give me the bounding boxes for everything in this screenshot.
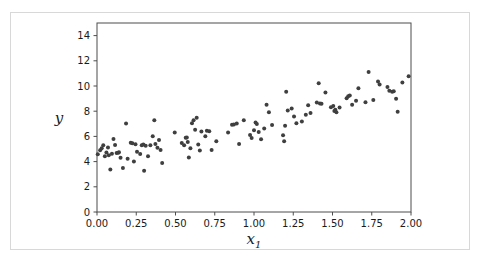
data-point — [121, 166, 125, 170]
data-point — [367, 70, 371, 74]
data-point — [304, 113, 308, 117]
data-point — [385, 85, 389, 89]
data-point — [132, 160, 136, 164]
y-tick-label: 10 — [77, 81, 90, 92]
data-point — [371, 98, 375, 102]
data-point — [235, 122, 239, 126]
data-point — [106, 145, 110, 149]
data-point — [148, 143, 152, 147]
data-point — [186, 140, 190, 144]
data-point — [252, 128, 256, 132]
data-point — [265, 103, 269, 107]
data-point — [146, 154, 150, 158]
x-tick-label: 1.25 — [282, 218, 304, 229]
figure-root: 0.000.250.500.751.001.251.501.752.00 024… — [0, 0, 481, 263]
data-point — [185, 135, 189, 139]
data-point — [348, 93, 352, 97]
data-point — [309, 111, 313, 115]
data-point — [286, 109, 290, 113]
data-point — [331, 104, 335, 108]
plot-frame — [97, 23, 411, 212]
data-point — [282, 139, 286, 143]
data-point — [317, 81, 321, 85]
data-point — [133, 142, 137, 146]
y-tick-label: 8 — [84, 106, 90, 117]
data-point — [242, 118, 246, 122]
data-point — [198, 149, 202, 153]
data-point — [207, 129, 211, 133]
data-point — [392, 89, 396, 93]
x-tick-label: 1.00 — [243, 218, 265, 229]
y-tick-label: 14 — [77, 30, 90, 41]
y-tick-label: 6 — [84, 131, 90, 142]
data-point — [193, 128, 197, 132]
data-point — [262, 127, 266, 131]
data-point — [103, 154, 107, 158]
x-axis-ticks: 0.000.250.500.751.001.251.501.752.00 — [86, 212, 422, 229]
y-tick-label: 2 — [84, 181, 90, 192]
data-point — [226, 131, 230, 135]
y-tick-label: 0 — [84, 207, 90, 218]
y-axis-title: y — [54, 109, 64, 127]
x-tick-label: 0.75 — [204, 218, 226, 229]
data-point — [101, 143, 105, 147]
data-point — [255, 122, 259, 126]
data-point — [338, 105, 342, 109]
data-point — [294, 121, 298, 125]
figure-card: 0.000.250.500.751.001.251.501.752.00 024… — [10, 12, 470, 250]
scatter-plot: 0.000.250.500.751.001.251.501.752.00 024… — [11, 13, 471, 251]
data-point — [108, 167, 112, 171]
data-point — [142, 169, 146, 173]
x-axis-title-subscript: 1 — [255, 239, 261, 250]
data-point — [152, 118, 156, 122]
data-point — [283, 124, 287, 128]
data-point — [214, 139, 218, 143]
data-point — [290, 106, 294, 110]
data-point — [138, 152, 142, 156]
data-point — [237, 142, 241, 146]
data-point — [320, 102, 324, 106]
x-axis-title: x1 — [247, 230, 262, 250]
data-point — [159, 148, 163, 152]
data-point — [157, 138, 161, 142]
data-point — [354, 99, 358, 103]
data-points-layer — [96, 70, 411, 173]
data-point — [110, 152, 114, 156]
y-tick-label: 4 — [84, 156, 90, 167]
data-point — [117, 150, 121, 154]
data-point — [203, 134, 207, 138]
x-tick-label: 1.50 — [321, 218, 343, 229]
data-point — [119, 156, 123, 160]
data-point — [187, 156, 191, 160]
x-tick-label: 0.50 — [164, 218, 186, 229]
data-point — [259, 137, 263, 141]
data-point — [306, 103, 310, 107]
data-point — [196, 143, 200, 147]
data-point — [363, 100, 367, 104]
data-point — [195, 116, 199, 120]
x-tick-label: 1.75 — [361, 218, 383, 229]
data-point — [334, 110, 338, 114]
data-point — [188, 146, 192, 150]
data-point — [173, 131, 177, 135]
data-point — [160, 161, 164, 165]
data-point — [199, 130, 203, 134]
data-point — [281, 133, 285, 137]
data-point — [182, 143, 186, 147]
data-point — [300, 120, 304, 124]
data-point — [292, 114, 296, 118]
data-point — [270, 123, 274, 127]
data-point — [356, 86, 360, 90]
data-point — [153, 142, 157, 146]
data-point — [396, 110, 400, 114]
data-point — [96, 152, 100, 156]
x-tick-label: 0.25 — [125, 218, 147, 229]
data-point — [378, 82, 382, 86]
y-axis-ticks: 02468101214 — [77, 30, 97, 217]
data-point — [400, 80, 404, 84]
data-point — [350, 103, 354, 107]
x-tick-label: 0.00 — [86, 218, 108, 229]
data-point — [151, 134, 155, 138]
y-tick-label: 12 — [77, 55, 90, 66]
data-point — [250, 136, 254, 140]
